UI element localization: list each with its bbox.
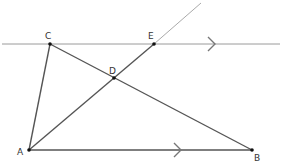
ray-extension xyxy=(154,3,201,44)
label-a: A xyxy=(17,147,24,157)
label-b: B xyxy=(254,153,260,163)
point-b xyxy=(250,148,254,152)
point-d xyxy=(112,76,116,80)
segment-cb xyxy=(50,44,252,150)
point-c xyxy=(48,42,52,46)
label-d: D xyxy=(109,66,116,76)
point-a xyxy=(27,148,31,152)
label-c: C xyxy=(45,31,51,41)
geometry-diagram: C E D A B xyxy=(0,0,287,165)
label-e: E xyxy=(148,31,154,41)
segment-ae xyxy=(29,44,154,150)
point-e xyxy=(152,42,156,46)
